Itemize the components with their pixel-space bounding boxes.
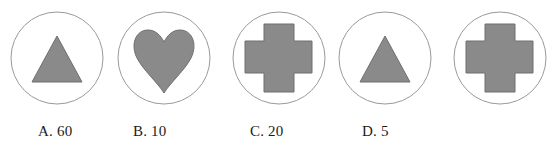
cross-icon: [245, 24, 312, 92]
options-row: A. 60 B. 10 C. 20 D. 5: [0, 118, 555, 159]
triangle-icon: [32, 36, 82, 82]
cross-icon: [466, 24, 533, 92]
option-d[interactable]: D. 5: [362, 118, 389, 145]
figure-item-4: [338, 11, 432, 105]
shape-sequence-question: A. 60 B. 10 C. 20 D. 5: [0, 0, 555, 159]
figure-item-5: [453, 11, 547, 105]
heart-icon: [134, 30, 194, 93]
figure-item-2: [117, 11, 211, 105]
triangle-icon: [360, 36, 410, 82]
figure-row: [0, 0, 555, 118]
figure-item-1: [10, 11, 104, 105]
option-b[interactable]: B. 10: [133, 118, 167, 145]
option-a[interactable]: A. 60: [38, 118, 72, 145]
figure-item-3: [232, 11, 326, 105]
option-c[interactable]: C. 20: [250, 118, 284, 145]
